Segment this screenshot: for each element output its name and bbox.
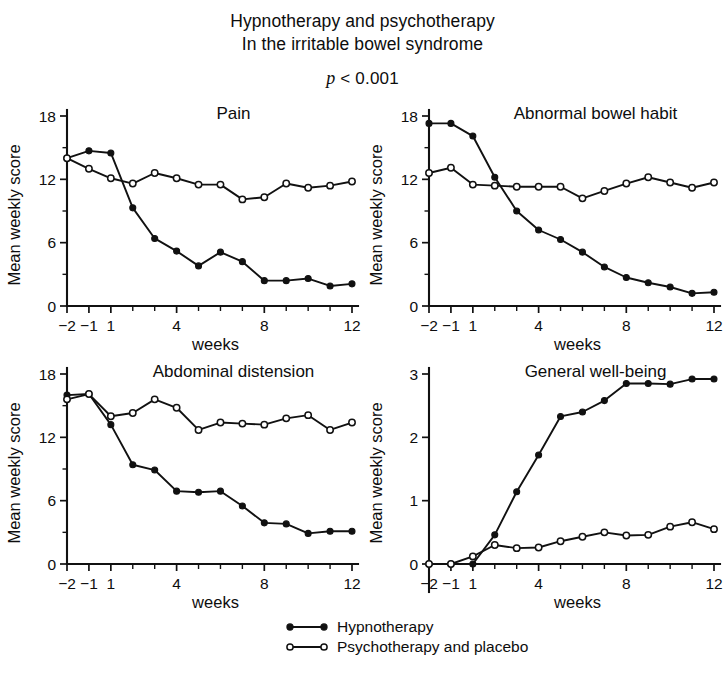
data-point bbox=[557, 538, 563, 544]
x-tick-label: 12 bbox=[705, 575, 722, 592]
legend-label-psychotherapy: Psychotherapy and placebo bbox=[337, 638, 528, 656]
data-point bbox=[470, 181, 476, 187]
x-tick-label: 1 bbox=[469, 317, 478, 334]
data-point bbox=[130, 410, 136, 416]
x-tick-label: 1 bbox=[469, 575, 478, 592]
data-point bbox=[130, 180, 136, 186]
data-point bbox=[239, 503, 245, 509]
p-value-annotation: p < 0.001 bbox=[0, 68, 725, 89]
data-point bbox=[513, 545, 519, 551]
y-tick-label: 18 bbox=[401, 108, 418, 125]
data-point bbox=[130, 205, 136, 211]
data-point bbox=[261, 194, 267, 200]
data-point bbox=[283, 180, 289, 186]
data-point bbox=[667, 381, 673, 387]
data-point bbox=[239, 196, 245, 202]
data-point bbox=[645, 532, 651, 538]
data-point bbox=[645, 280, 651, 286]
data-point bbox=[579, 195, 585, 201]
x-tick-label: −1 bbox=[80, 317, 98, 334]
data-point bbox=[217, 249, 223, 255]
data-point bbox=[239, 259, 245, 265]
figure-title-line-1: Hypnotherapy and psychotherapy bbox=[0, 10, 725, 33]
data-point bbox=[492, 532, 498, 538]
data-point bbox=[645, 381, 651, 387]
legend-item-hypnotherapy: Hypnotherapy bbox=[285, 617, 528, 637]
y-tick-label: 2 bbox=[409, 429, 418, 446]
data-point bbox=[492, 174, 498, 180]
data-point bbox=[711, 526, 717, 532]
p-value-text: < 0.001 bbox=[340, 69, 399, 88]
y-tick-label: 0 bbox=[47, 556, 56, 573]
data-point bbox=[196, 263, 202, 269]
data-point bbox=[623, 180, 629, 186]
data-point bbox=[623, 381, 629, 387]
x-tick-label: 4 bbox=[534, 575, 543, 592]
data-point bbox=[195, 427, 201, 433]
data-point bbox=[64, 155, 70, 161]
data-point bbox=[470, 553, 476, 559]
panel-pain: 061218−2−114812weeksMean weekly scorePai… bbox=[0, 89, 363, 347]
x-tick-label: 4 bbox=[172, 575, 181, 592]
data-point bbox=[514, 208, 520, 214]
y-tick-label: 0 bbox=[409, 298, 418, 315]
y-tick-label: 18 bbox=[39, 366, 56, 383]
data-point bbox=[711, 289, 717, 295]
data-point bbox=[152, 467, 158, 473]
y-axis-title: Mean weekly score bbox=[5, 144, 23, 285]
data-point bbox=[283, 278, 289, 284]
chart-3: 0123−2−114812weeksMean weekly scoreGener… bbox=[362, 347, 725, 605]
x-tick-label: −2 bbox=[420, 317, 438, 334]
series-line-0 bbox=[429, 379, 714, 564]
data-point bbox=[579, 249, 585, 255]
data-point bbox=[513, 184, 519, 190]
data-point bbox=[305, 530, 311, 536]
y-axis-title: Mean weekly score bbox=[5, 402, 23, 543]
y-tick-label: 6 bbox=[47, 234, 56, 251]
data-point bbox=[108, 413, 114, 419]
data-point bbox=[283, 415, 289, 421]
data-point bbox=[173, 405, 179, 411]
data-point bbox=[86, 391, 92, 397]
figure-title-line-2: In the irritable bowel syndrome bbox=[0, 33, 725, 56]
data-point bbox=[689, 376, 695, 382]
x-tick-label: 8 bbox=[260, 575, 269, 592]
data-point bbox=[130, 462, 136, 468]
data-point bbox=[689, 519, 695, 525]
data-point bbox=[217, 488, 223, 494]
data-point bbox=[64, 396, 70, 402]
x-tick-label: 12 bbox=[343, 575, 360, 592]
panel-abdominal-distension: 061218−2−114812weeksMean weekly scoreAbd… bbox=[0, 347, 363, 605]
data-point bbox=[711, 376, 717, 382]
data-point bbox=[239, 420, 245, 426]
y-tick-label: 0 bbox=[409, 556, 418, 573]
data-point bbox=[492, 182, 498, 188]
x-tick-label: −2 bbox=[420, 575, 438, 592]
data-point bbox=[305, 185, 311, 191]
data-point bbox=[349, 528, 355, 534]
legend-open-circle-icon bbox=[285, 640, 329, 654]
data-point bbox=[283, 521, 289, 527]
data-point bbox=[579, 409, 585, 415]
legend-item-psychotherapy: Psychotherapy and placebo bbox=[285, 637, 528, 657]
data-point bbox=[327, 528, 333, 534]
data-point bbox=[173, 175, 179, 181]
data-point bbox=[558, 237, 564, 243]
legend-label-hypnotherapy: Hypnotherapy bbox=[337, 618, 434, 636]
data-point bbox=[536, 452, 542, 458]
y-tick-label: 12 bbox=[39, 171, 56, 188]
y-axis-title: Mean weekly score bbox=[367, 402, 385, 543]
data-point bbox=[108, 150, 114, 156]
data-point bbox=[217, 181, 223, 187]
data-point bbox=[108, 175, 114, 181]
y-tick-label: 18 bbox=[39, 108, 56, 125]
x-tick-label: 4 bbox=[172, 317, 181, 334]
chart-2: 061218−2−114812weeksMean weekly scoreAbd… bbox=[0, 347, 363, 605]
data-point bbox=[426, 120, 432, 126]
data-point bbox=[195, 181, 201, 187]
data-point bbox=[514, 489, 520, 495]
x-tick-label: 8 bbox=[622, 575, 631, 592]
data-point bbox=[689, 290, 695, 296]
data-point bbox=[492, 542, 498, 548]
x-tick-label: 12 bbox=[343, 317, 360, 334]
